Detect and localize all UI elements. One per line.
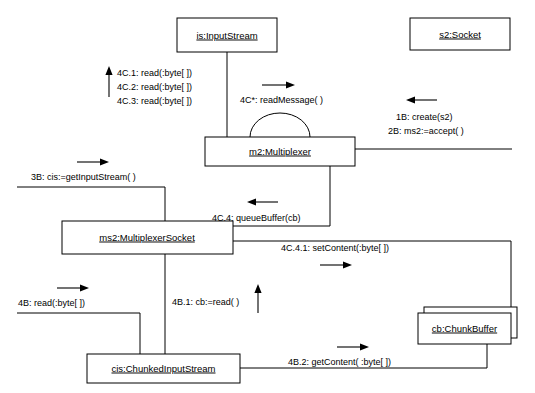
arrow-head-4b <box>80 284 89 291</box>
arrow-head-readmessage <box>286 81 295 88</box>
diagram-canvas: is:InputStream s2:Socket m2:Multiplexer … <box>0 0 535 393</box>
message-label-4c1-read: 4C.1: read(:byte[ ]) <box>117 68 192 78</box>
arrow-head-4c4 <box>247 198 256 205</box>
message-label-4c-readmessage: 4C*: readMessage( ) <box>240 95 323 105</box>
message-label-1b-create: 1B: create(s2) <box>396 112 453 122</box>
message-group-4c-readmessage: 4C*: readMessage( ) <box>240 81 323 105</box>
message-group-4c4: 4C.4: queueBuffer(cb) <box>212 198 300 223</box>
arrow-head-4b1 <box>254 284 261 293</box>
message-group-3b: 3B: cis:=getInputStream( ) <box>31 158 136 182</box>
message-label-4c2-read: 4C.2: read(:byte[ ]) <box>117 82 192 92</box>
message-group-4c-reads: 4C.1: read(:byte[ ]) 4C.2: read(:byte[ ]… <box>105 66 192 106</box>
message-group-4c41: 4C.4.1: setContent(:byte[ ]) <box>281 243 389 268</box>
message-label-4b-read: 4B: read(:byte[ ]) <box>18 298 85 308</box>
arrow-head-1b-2b <box>406 96 415 103</box>
message-label-4b1-cbread: 4B.1: cb:=read( ) <box>172 297 239 307</box>
message-group-4b2: 4B.2: getContent( :byte[ ]) <box>288 343 391 367</box>
arrow-head-4b2 <box>360 343 369 350</box>
message-label-2b-accept: 2B: ms2:=accept( ) <box>388 126 464 136</box>
object-label-is-inputstream: is:InputStream <box>196 30 257 41</box>
message-group-1b-2b: 1B: create(s2) 2B: ms2:=accept( ) <box>388 96 464 136</box>
arrow-head-3b <box>100 158 109 165</box>
object-label-ms2-multiplexersocket: ms2:MultiplexerSocket <box>99 232 195 243</box>
message-label-4c3-read: 4C.3: read(:byte[ ]) <box>117 96 192 106</box>
uml-communication-diagram: is:InputStream s2:Socket m2:Multiplexer … <box>0 0 535 393</box>
object-label-cb-chunkbuffer: cb:ChunkBuffer <box>432 323 497 334</box>
arrow-head-4c41 <box>343 261 352 268</box>
object-label-s2-socket: s2:Socket <box>439 29 481 40</box>
self-loop-readmessage <box>250 113 310 137</box>
object-label-m2-multiplexer: m2:Multiplexer <box>249 146 311 157</box>
message-group-4b1: 4B.1: cb:=read( ) <box>172 284 262 313</box>
message-label-3b-getinputstream: 3B: cis:=getInputStream( ) <box>31 172 136 182</box>
object-label-cis-chunkedinputstream: cis:ChunkedInputStream <box>111 363 215 374</box>
link-4b-read <box>17 313 140 354</box>
message-label-4c4-queuebuffer: 4C.4: queueBuffer(cb) <box>212 213 300 223</box>
message-label-4c41-setcontent: 4C.4.1: setContent(:byte[ ]) <box>281 243 389 253</box>
message-group-4b: 4B: read(:byte[ ]) <box>18 284 89 308</box>
message-label-4b2-getcontent: 4B.2: getContent( :byte[ ]) <box>288 357 391 367</box>
arrow-head-4c-reads <box>105 66 112 75</box>
link-3b-getinputstream <box>17 187 165 221</box>
